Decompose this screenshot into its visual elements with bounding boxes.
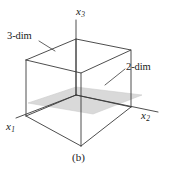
shaded-2dim-plane [28,87,142,114]
callout-leader-lines [39,41,125,85]
cube-top-face [26,39,131,73]
callout-label-2dim: 2-dim [126,62,151,73]
figure-container: x3 x2 x1 3-dim 2-dim (b) [0,0,171,172]
cube-diagram-svg [0,0,171,172]
axis-label-x2: x2 [141,110,150,123]
cube-edge-bottom-left-front [26,116,81,146]
leader-line-2dim [105,69,125,85]
figure-caption: (b) [72,152,85,163]
axis-label-x1: x1 [6,121,15,134]
callout-label-3dim: 3-dim [7,31,32,42]
leader-line-3dim [39,41,55,51]
axis-label-x3: x3 [76,6,85,19]
